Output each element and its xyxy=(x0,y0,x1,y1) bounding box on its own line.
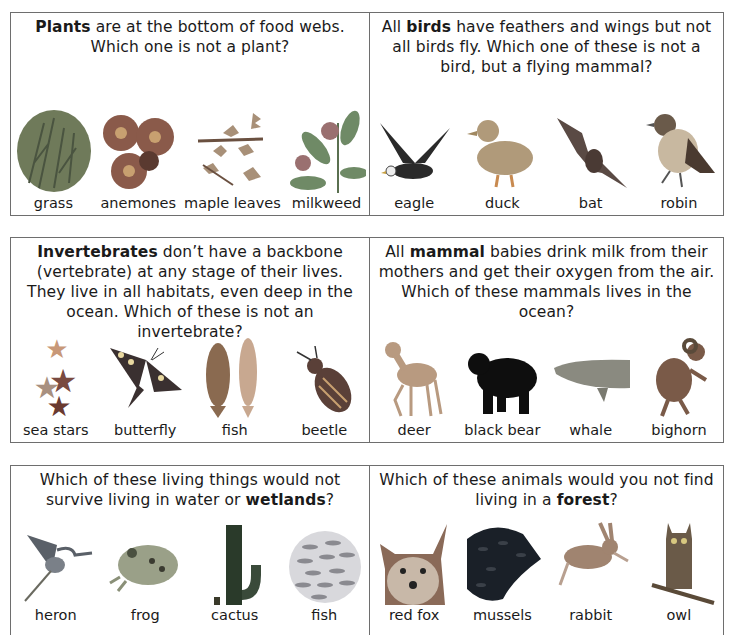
panel-mammals: All mammal babies drink milk from their … xyxy=(369,237,724,443)
bat-icon xyxy=(552,103,630,193)
heron-icon xyxy=(17,525,95,605)
answer-options: deer black bear whale bighorn xyxy=(370,330,723,438)
deer-icon xyxy=(375,330,453,420)
option-label: cactus xyxy=(211,607,258,623)
option-milkweed[interactable]: milkweed xyxy=(288,103,366,211)
anemone-icon xyxy=(99,103,177,193)
question-text: Which of these animals would you not fin… xyxy=(370,466,723,510)
option-label: anemones xyxy=(100,195,176,211)
option-label: red fox xyxy=(389,607,440,623)
duck-icon xyxy=(463,103,541,193)
option-deer[interactable]: deer xyxy=(375,330,453,438)
option-maple-leaves[interactable]: maple leaves xyxy=(184,103,281,211)
option-label: frog xyxy=(131,607,160,623)
grass-icon xyxy=(14,103,92,193)
mussels-icon xyxy=(463,519,541,605)
option-label: sea stars xyxy=(23,422,89,438)
option-grass[interactable]: grass xyxy=(14,103,92,211)
option-label: black bear xyxy=(464,422,540,438)
row-2: Invertebrates don’t have a backbone (ver… xyxy=(10,237,724,443)
question-text: Invertebrates don’t have a backbone (ver… xyxy=(11,238,369,342)
option-label: owl xyxy=(666,607,691,623)
option-label: duck xyxy=(485,195,520,211)
frog-icon xyxy=(106,525,184,605)
option-label: maple leaves xyxy=(184,195,281,211)
panel-wetlands: Which of these living things would not s… xyxy=(10,465,369,635)
milkweed-icon xyxy=(288,103,366,193)
svg-text:★: ★ xyxy=(46,390,71,420)
option-label: robin xyxy=(660,195,697,211)
robin-icon xyxy=(640,103,718,193)
option-label: whale xyxy=(569,422,612,438)
question-text: Plants are at the bottom of food webs. W… xyxy=(11,13,369,57)
svg-text:★: ★ xyxy=(45,334,68,364)
answer-options: red fox mussels rabbit owl xyxy=(370,519,723,623)
option-bat[interactable]: bat xyxy=(552,103,630,211)
fish-icon xyxy=(196,330,274,420)
option-anemones[interactable]: anemones xyxy=(99,103,177,211)
option-frog[interactable]: frog xyxy=(106,525,184,623)
fox-icon xyxy=(375,519,453,605)
option-rabbit[interactable]: rabbit xyxy=(552,519,630,623)
row-1: Plants are at the bottom of food webs. W… xyxy=(10,12,724,216)
cactus-icon xyxy=(196,525,274,605)
option-label: mussels xyxy=(473,607,532,623)
option-label: fish xyxy=(222,422,248,438)
option-whale[interactable]: whale xyxy=(552,330,630,438)
option-label: bat xyxy=(579,195,603,211)
option-black-bear[interactable]: black bear xyxy=(463,330,541,438)
option-fish[interactable]: fish xyxy=(196,330,274,438)
option-label: fish xyxy=(311,607,337,623)
row-3: Which of these living things would not s… xyxy=(10,465,724,635)
option-red-fox[interactable]: red fox xyxy=(375,519,453,623)
option-butterfly[interactable]: butterfly xyxy=(106,330,184,438)
option-label: bighorn xyxy=(651,422,706,438)
option-beetle[interactable]: beetle xyxy=(285,330,363,438)
bighorn-icon xyxy=(640,330,718,420)
fish-school-icon xyxy=(285,525,363,605)
option-label: eagle xyxy=(394,195,434,211)
option-mussels[interactable]: mussels xyxy=(463,519,541,623)
option-sea-stars[interactable]: ★★★★ sea stars xyxy=(17,330,95,438)
beetle-icon xyxy=(285,330,363,420)
option-label: rabbit xyxy=(569,607,612,623)
rabbit-icon xyxy=(552,519,630,605)
option-label: milkweed xyxy=(292,195,361,211)
maple-leaf-icon xyxy=(193,103,271,193)
option-robin[interactable]: robin xyxy=(640,103,718,211)
option-heron[interactable]: heron xyxy=(17,525,95,623)
sea-star-icon: ★★★★ xyxy=(17,330,95,420)
option-duck[interactable]: duck xyxy=(463,103,541,211)
panel-plants: Plants are at the bottom of food webs. W… xyxy=(10,12,369,216)
option-eagle[interactable]: eagle xyxy=(375,103,453,211)
panel-birds: All birds have feathers and wings but no… xyxy=(369,12,724,216)
butterfly-icon xyxy=(106,330,184,420)
eagle-icon xyxy=(375,103,453,193)
option-cactus[interactable]: cactus xyxy=(196,525,274,623)
option-label: grass xyxy=(34,195,73,211)
question-text: All mammal babies drink milk from their … xyxy=(370,238,723,322)
panel-forest: Which of these animals would you not fin… xyxy=(369,465,724,635)
option-label: butterfly xyxy=(114,422,176,438)
answer-options: ★★★★ sea stars butterfly fish xyxy=(11,330,369,438)
option-bighorn[interactable]: bighorn xyxy=(640,330,718,438)
option-label: beetle xyxy=(301,422,347,438)
whale-icon xyxy=(552,330,630,420)
option-owl[interactable]: owl xyxy=(640,519,718,623)
answer-options: eagle duck bat robin xyxy=(370,103,723,211)
answer-options: grass anemones maple leaves milkweed xyxy=(11,103,369,211)
question-text: Which of these living things would not s… xyxy=(11,466,369,510)
question-text: All birds have feathers and wings but no… xyxy=(370,13,723,77)
option-label: deer xyxy=(398,422,431,438)
owl-icon xyxy=(640,519,718,605)
option-label: heron xyxy=(35,607,77,623)
panel-invertebrates: Invertebrates don’t have a backbone (ver… xyxy=(10,237,369,443)
bear-icon xyxy=(463,330,541,420)
option-fish-school[interactable]: fish xyxy=(285,525,363,623)
answer-options: heron frog cactus fish xyxy=(11,525,369,623)
